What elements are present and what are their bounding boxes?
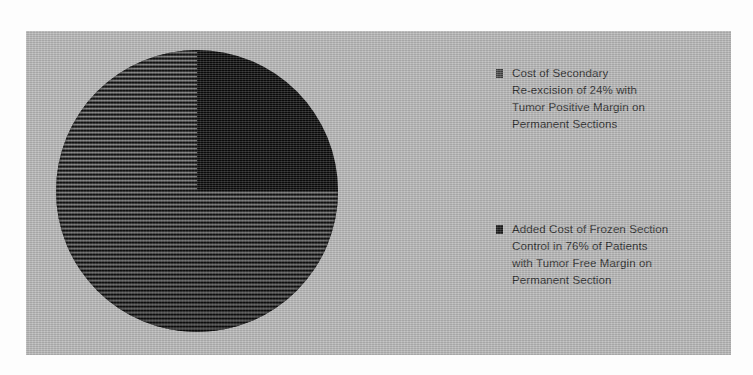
- pie-chart: [56, 50, 338, 332]
- legend-item-label: Added Cost of Frozen Section Control in …: [512, 221, 668, 289]
- legend-item-label: Cost of Secondary Re-excision of 24% wit…: [512, 65, 645, 133]
- pie-chart-screenshot: Cost of Secondary Re-excision of 24% wit…: [0, 0, 753, 375]
- legend-swatch-icon: [496, 69, 503, 78]
- legend-swatch-icon: [496, 225, 503, 234]
- chart-panel: Cost of Secondary Re-excision of 24% wit…: [26, 31, 731, 355]
- legend-item-secondary-re-excision[interactable]: Cost of Secondary Re-excision of 24% wit…: [496, 65, 726, 133]
- legend-item-frozen-section-control[interactable]: Added Cost of Frozen Section Control in …: [496, 221, 726, 289]
